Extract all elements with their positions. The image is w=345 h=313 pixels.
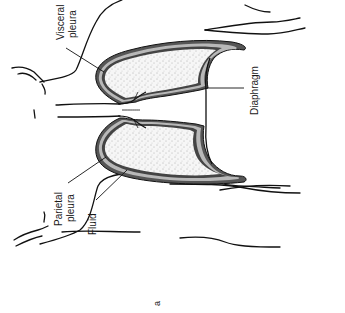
panel-letter: a <box>152 301 162 306</box>
label-fluid: Fluid <box>87 213 98 235</box>
pleura-diagram: Visceral pleura Diaphragm Parietal pleur… <box>0 0 345 313</box>
lower-lung <box>96 118 246 184</box>
label-diaphragm: Diaphragm <box>249 66 260 115</box>
fluid-leader <box>96 170 127 200</box>
label-parietal-line2: pleura <box>65 194 76 222</box>
label-visceral-line1: Visceral <box>55 5 66 40</box>
label-visceral-line2: pleura <box>67 10 78 38</box>
left-shoulders <box>12 67 48 246</box>
parietal-pleura-leader <box>68 157 106 183</box>
upper-lung <box>96 40 246 104</box>
label-parietal-line1: Parietal <box>53 192 64 226</box>
trachea <box>56 104 120 117</box>
diaphragm <box>206 58 212 164</box>
visceral-pleura-leader <box>66 48 104 72</box>
